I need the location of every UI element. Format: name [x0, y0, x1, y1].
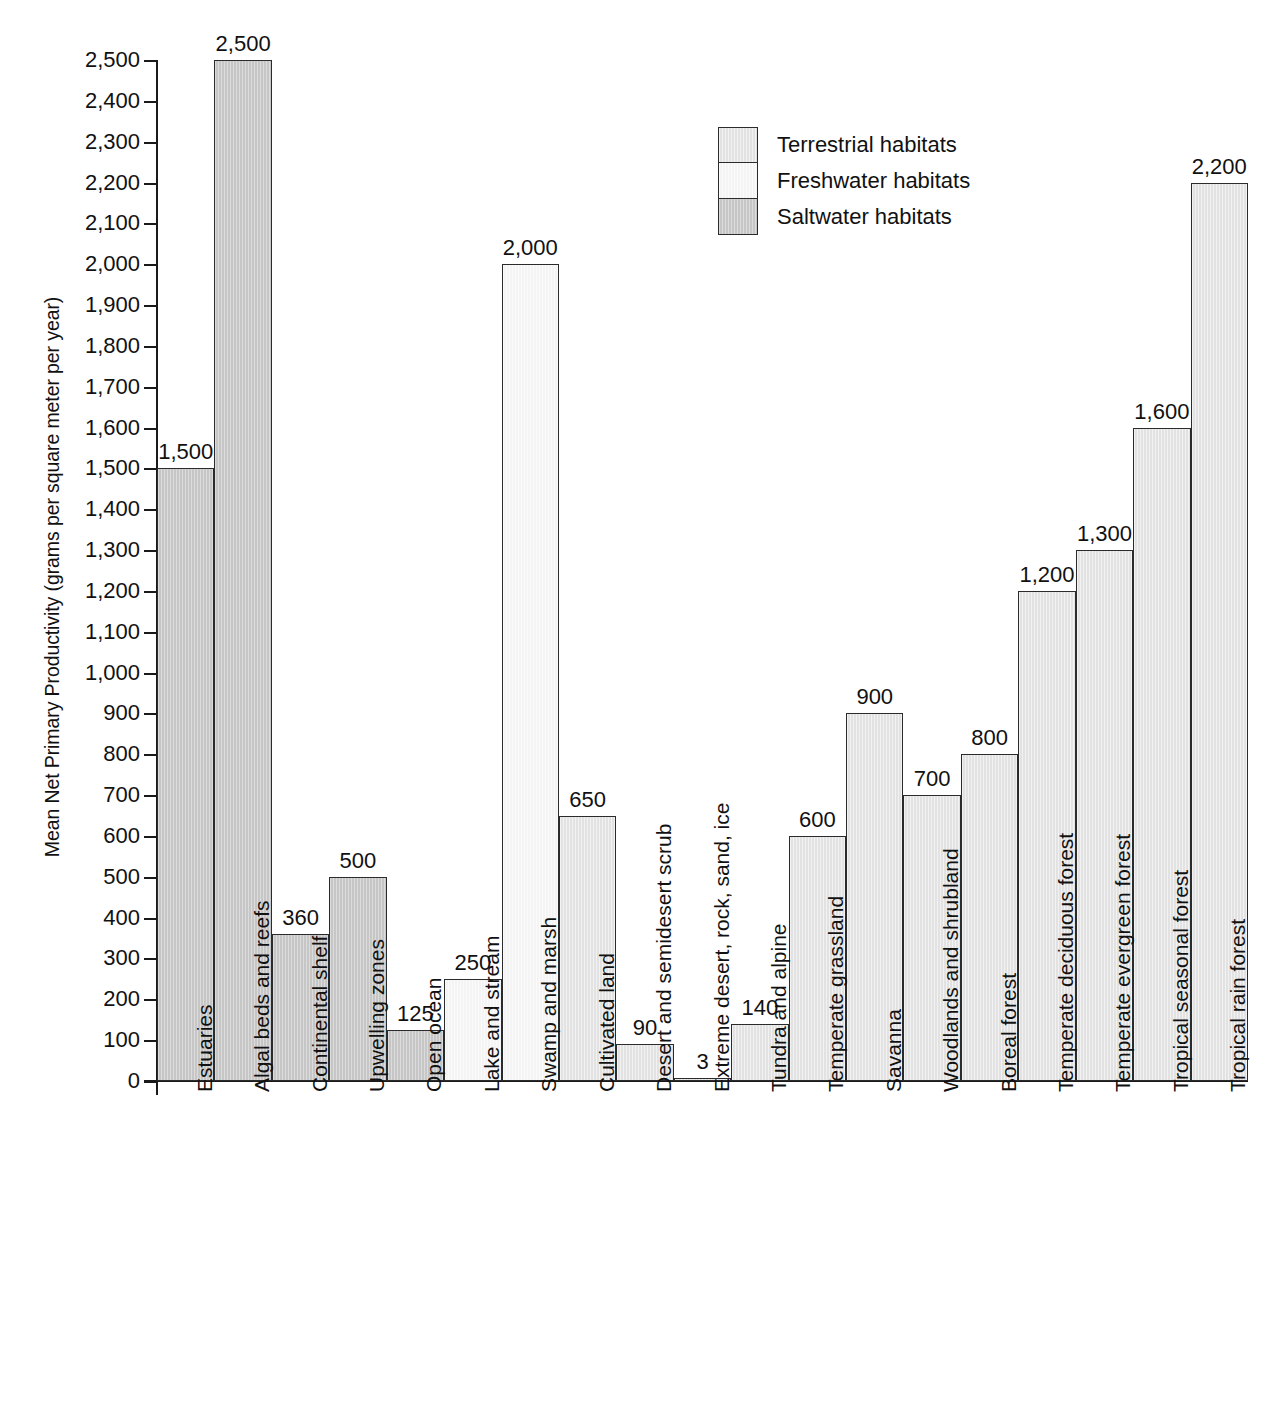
- bar-value-label: 700: [914, 768, 951, 790]
- bar-value-label: 2,000: [503, 237, 558, 259]
- y-axis-tick: [144, 183, 157, 185]
- y-axis-tick-label: 1,000: [20, 662, 140, 684]
- y-axis-tick: [144, 142, 157, 144]
- x-axis-category-label: Desert and semidesert scrub: [653, 824, 675, 1092]
- y-axis-tick: [144, 632, 157, 634]
- y-axis-tick-label: 600: [20, 825, 140, 847]
- x-axis-category-label: Tundra and alpine: [768, 923, 790, 1092]
- bar-chart-figure: Mean Net Primary Productivity (grams per…: [0, 0, 1283, 1418]
- x-axis-category-label: Upwelling zones: [366, 939, 388, 1092]
- legend-label: Terrestrial habitats: [777, 134, 957, 156]
- y-axis-tick-label: 500: [20, 866, 140, 888]
- x-axis-category-label: Savanna: [883, 1009, 905, 1092]
- legend-item[interactable]: Freshwater habitats: [718, 163, 1018, 199]
- x-axis-category-label: Woodlands and shrubland: [940, 848, 962, 1092]
- y-axis-tick-label: 2,200: [20, 172, 140, 194]
- x-axis-category-label: Cultivated land: [596, 953, 618, 1092]
- y-axis-tick: [144, 918, 157, 920]
- y-axis-tick-label: 400: [20, 907, 140, 929]
- bar-value-label: 500: [340, 850, 377, 872]
- y-axis-tick-label: 2,400: [20, 90, 140, 112]
- y-axis-tick-label: 1,800: [20, 335, 140, 357]
- y-axis-tick: [144, 795, 157, 797]
- y-axis-tick-label: 1,700: [20, 376, 140, 398]
- legend-label: Saltwater habitats: [777, 206, 952, 228]
- legend-swatch-freshwater: [718, 163, 758, 199]
- y-axis-tick-label: 1,600: [20, 417, 140, 439]
- y-axis-tick: [144, 713, 157, 715]
- y-axis-tick: [144, 101, 157, 103]
- y-axis-tick-label: 2,100: [20, 212, 140, 234]
- x-axis-category-label: Boreal forest: [998, 973, 1020, 1092]
- y-axis-tick-label: 1,300: [20, 539, 140, 561]
- x-axis-category-label: Swamp and marsh: [538, 917, 560, 1092]
- y-axis-tick: [144, 836, 157, 838]
- x-axis-category-label: Estuaries: [194, 1004, 216, 1092]
- bar-value-label: 1,500: [158, 441, 213, 463]
- y-axis-tick: [144, 1040, 157, 1042]
- y-axis-tick-label: 0: [20, 1070, 140, 1092]
- bar[interactable]: [157, 468, 214, 1081]
- bar-value-label: 1,200: [1019, 564, 1074, 586]
- legend-label: Freshwater habitats: [777, 170, 970, 192]
- x-axis-category-label: Tropical rain forest: [1227, 919, 1249, 1092]
- bar-value-label: 3: [696, 1051, 708, 1073]
- y-axis-tick-label: 2,300: [20, 131, 140, 153]
- y-axis-tick-label: 1,500: [20, 457, 140, 479]
- x-axis-category-label: Temperate grassland: [825, 896, 847, 1092]
- y-axis-tick-label: 1,100: [20, 621, 140, 643]
- y-axis-tick-label: 900: [20, 702, 140, 724]
- bar-value-label: 2,200: [1192, 156, 1247, 178]
- legend-swatch-terrestrial: [718, 127, 758, 163]
- y-axis-tick: [144, 223, 157, 225]
- legend-swatch-saltwater: [718, 199, 758, 235]
- y-axis-tick: [144, 509, 157, 511]
- y-axis-tick: [144, 264, 157, 266]
- legend: Terrestrial habitatsFreshwater habitatsS…: [718, 127, 1018, 235]
- y-axis-tick: [144, 346, 157, 348]
- bar-value-label: 2,500: [216, 33, 271, 55]
- x-axis-category-label: Open ocean: [423, 978, 445, 1092]
- x-axis-category-label: Algal beds and reefs: [251, 901, 273, 1092]
- y-axis-tick: [144, 387, 157, 389]
- y-axis-tick-label: 700: [20, 784, 140, 806]
- y-axis-tick: [144, 999, 157, 1001]
- y-axis-tick-label: 1,900: [20, 294, 140, 316]
- y-axis-tick: [144, 877, 157, 879]
- x-axis-category-label: Extreme desert, rock, sand, ice: [711, 803, 733, 1092]
- legend-item[interactable]: Terrestrial habitats: [718, 127, 1018, 163]
- y-axis-tick: [144, 305, 157, 307]
- legend-item[interactable]: Saltwater habitats: [718, 199, 1018, 235]
- y-axis-tick: [144, 754, 157, 756]
- y-axis-tick-label: 100: [20, 1029, 140, 1051]
- bar-value-label: 1,300: [1077, 523, 1132, 545]
- y-axis-tick-label: 1,200: [20, 580, 140, 602]
- y-axis-tick: [144, 468, 157, 470]
- y-axis-tick: [144, 60, 157, 62]
- y-axis-tick-label: 2,000: [20, 253, 140, 275]
- x-axis-category-label: Tropical seasonal forest: [1170, 870, 1192, 1092]
- plot-area: 01002003004005006007008009001,0001,1001,…: [157, 60, 1248, 1081]
- y-axis-tick-label: 200: [20, 988, 140, 1010]
- bar-value-label: 900: [856, 686, 893, 708]
- bar-value-label: 360: [282, 907, 319, 929]
- y-axis-tick-label: 300: [20, 947, 140, 969]
- y-axis-tick: [144, 550, 157, 552]
- x-axis-category-label: Temperate deciduous forest: [1055, 833, 1077, 1092]
- y-axis-tick-label: 1,400: [20, 498, 140, 520]
- y-axis-tick: [144, 1081, 157, 1083]
- x-axis-category-label: Lake and stream: [481, 936, 503, 1092]
- y-axis-tick-label: 2,500: [20, 49, 140, 71]
- y-axis-tick: [144, 428, 157, 430]
- bar-value-label: 650: [569, 789, 606, 811]
- x-axis-category-label: Continental shelf: [309, 936, 331, 1092]
- y-axis-tick-label: 800: [20, 743, 140, 765]
- y-axis-tick: [144, 591, 157, 593]
- x-axis-category-label: Temperate evergreen forest: [1112, 834, 1134, 1092]
- bar-value-label: 600: [799, 809, 836, 831]
- bar-value-label: 800: [971, 727, 1008, 749]
- y-axis-tick: [144, 673, 157, 675]
- y-axis-tick: [144, 958, 157, 960]
- bar-value-label: 1,600: [1134, 401, 1189, 423]
